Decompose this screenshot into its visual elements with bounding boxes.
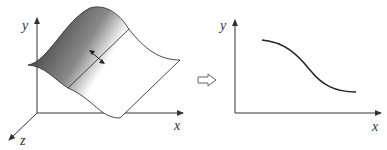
x-axis-label-3d: x xyxy=(173,118,181,133)
hollow-right-arrow-icon xyxy=(198,74,216,86)
diagram-canvas: y x z y x xyxy=(0,0,387,150)
x-axis-label-2d: x xyxy=(371,119,379,134)
left-3d-figure: y x z xyxy=(9,7,183,148)
y-axis-label-2d: y xyxy=(218,18,227,33)
profile-curve xyxy=(262,40,356,92)
z-axis-label-3d: z xyxy=(19,133,26,148)
right-2d-figure: y x xyxy=(218,18,381,134)
y-axis-label-3d: y xyxy=(20,18,29,33)
